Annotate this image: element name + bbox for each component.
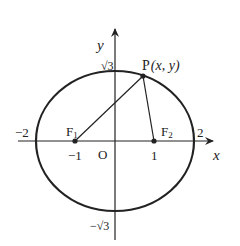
origin-label: O (98, 147, 107, 162)
x-axis-label: x (212, 147, 220, 163)
tick-x-neg1: −1 (68, 148, 82, 163)
tick-y-neg-sqrt3: −√3 (90, 219, 109, 233)
focus-f2-dot (151, 138, 156, 143)
tick-x-pos2: 2 (197, 125, 204, 140)
tick-x-neg2: −2 (15, 125, 29, 140)
tick-x-pos1: 1 (151, 148, 158, 163)
segment-pf2 (143, 76, 154, 141)
point-p-label: P(x, y) (142, 58, 180, 74)
ellipse-diagram: y x O −2 2 −1 1 √3 −√3 F1 F2 P(x, y) (0, 0, 240, 246)
tick-y-sqrt3: √3 (101, 59, 114, 73)
point-p-dot (140, 73, 145, 78)
focus-f1-label: F1 (66, 124, 78, 140)
focus-f2-label: F2 (161, 124, 173, 140)
segment-pf1 (75, 76, 143, 141)
y-axis-label: y (95, 37, 104, 53)
